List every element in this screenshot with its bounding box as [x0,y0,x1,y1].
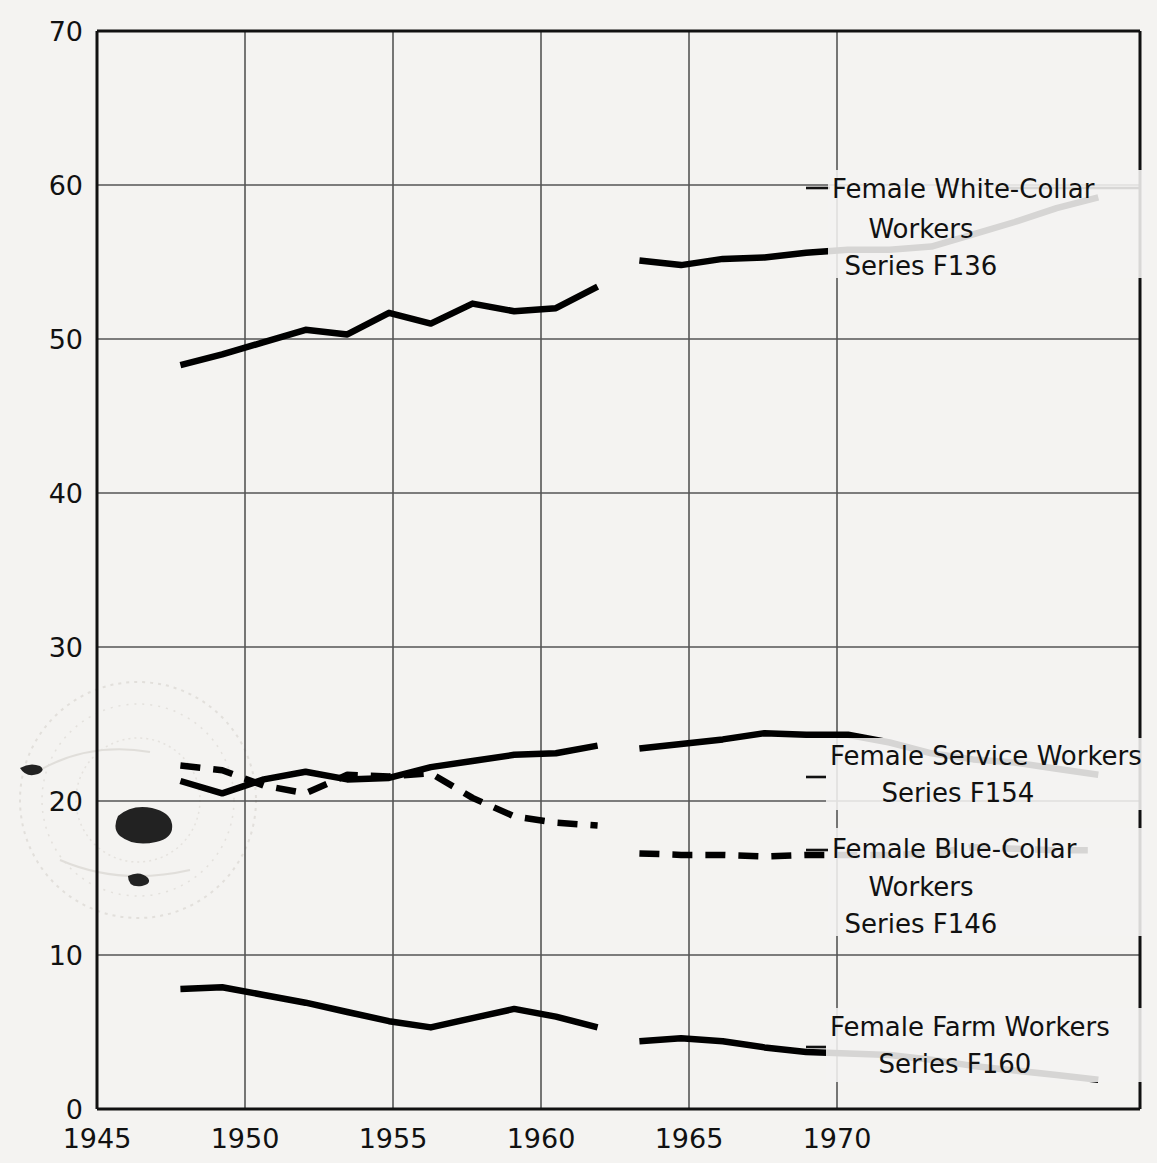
x-tick-1960: 1960 [507,1123,576,1154]
annotation-white-collar-line1: Female White-Collar [832,174,1095,204]
page-top-crop-band [0,0,1157,14]
chart-svg: 70 60 50 40 30 20 10 0 1945 1950 1955 19… [0,0,1157,1163]
annotation-farm-line2: Series F160 [879,1049,1032,1079]
y-tick-50: 50 [49,324,83,355]
annotation-blue-collar[interactable]: Female Blue-Collar Workers Series F146 [828,828,1146,939]
x-tick-1970: 1970 [803,1123,872,1154]
annotation-farm[interactable]: Female Farm Workers Series F160 [826,1008,1146,1082]
annotation-service-line2: Series F154 [882,778,1035,808]
y-tick-40: 40 [49,478,83,509]
annotation-service-line1: Female Service Workers [830,741,1142,771]
annotation-service[interactable]: Female Service Workers Series F154 [826,738,1146,810]
annotation-blue-collar-line3: Series F146 [845,909,998,939]
y-tick-60: 60 [49,170,83,201]
annotation-white-collar[interactable]: Female White-Collar Workers Series F136 [828,170,1146,281]
annotation-white-collar-line3: Series F136 [845,251,998,281]
annotation-blue-collar-line1: Female Blue-Collar [832,834,1077,864]
chart-figure: 70 60 50 40 30 20 10 0 1945 1950 1955 19… [0,0,1157,1163]
y-tick-30: 30 [49,632,83,663]
x-tick-1955: 1955 [359,1123,428,1154]
annotation-farm-line1: Female Farm Workers [830,1012,1110,1042]
y-tick-0: 0 [66,1094,83,1125]
y-tick-70: 70 [49,16,83,47]
x-tick-1965: 1965 [655,1123,724,1154]
annotation-white-collar-line2: Workers [868,214,973,244]
y-tick-10: 10 [49,940,83,971]
x-tick-1945: 1945 [63,1123,132,1154]
annotation-blue-collar-line2: Workers [868,872,973,902]
x-tick-1950: 1950 [211,1123,280,1154]
y-tick-20: 20 [49,786,83,817]
